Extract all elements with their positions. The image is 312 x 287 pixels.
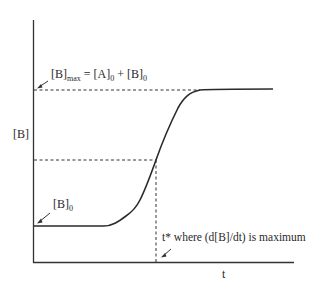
b0-label: [B]0 xyxy=(53,198,73,210)
a0-subscript: 0 xyxy=(110,74,114,83)
bmax-arrow-icon xyxy=(37,81,48,89)
bmax-base: [B] xyxy=(51,67,67,81)
tstar-label: t* where (d[B]/dt) is maximum xyxy=(162,232,306,244)
b0-base: [B] xyxy=(53,197,69,211)
b0-arrow-icon xyxy=(37,213,50,224)
y-axis-label: [B] xyxy=(13,128,29,140)
b0-subscript-max: 0 xyxy=(143,74,147,83)
b0-subscript: 0 xyxy=(69,204,73,213)
kinetics-diagram xyxy=(0,0,312,287)
bmax-eq: = [A] xyxy=(81,67,110,81)
bmax-label: [B]max = [A]0 + [B]0 xyxy=(51,68,147,80)
x-axis-label: t xyxy=(222,268,225,280)
bmax-plus: + [B] xyxy=(114,67,143,81)
bmax-subscript: max xyxy=(67,74,81,83)
tstar-arrow-icon xyxy=(161,249,171,258)
